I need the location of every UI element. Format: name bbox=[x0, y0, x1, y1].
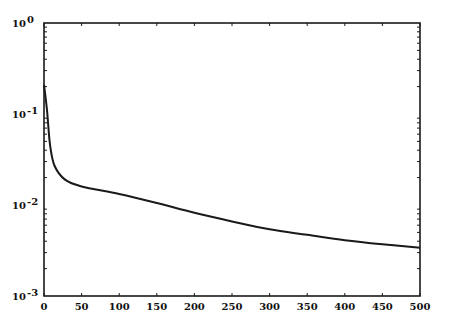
x-tick-label: 400 bbox=[334, 301, 355, 312]
y-tick-exponent: 0 bbox=[27, 14, 34, 25]
x-tick-label: 200 bbox=[184, 301, 205, 312]
y-tick-label: 10 bbox=[12, 18, 26, 29]
x-tick-label: 50 bbox=[75, 301, 89, 312]
series-line bbox=[44, 85, 420, 248]
x-tick-label: 100 bbox=[109, 301, 130, 312]
x-axis: 050100150200250300350400450500 bbox=[41, 23, 431, 312]
line-chart: 10010-110-210-3 050100150200250300350400… bbox=[0, 0, 451, 329]
x-tick-label: 0 bbox=[41, 301, 48, 312]
x-tick-label: 150 bbox=[146, 301, 167, 312]
x-tick-label: 450 bbox=[372, 301, 393, 312]
data-series bbox=[44, 85, 420, 248]
y-tick-label: 10 bbox=[12, 200, 26, 211]
y-tick-exponent: -3 bbox=[27, 287, 38, 298]
plot-border bbox=[44, 23, 420, 296]
x-tick-label: 500 bbox=[410, 301, 431, 312]
y-tick-exponent: -2 bbox=[27, 196, 38, 207]
y-axis: 10010-110-210-3 bbox=[12, 14, 420, 302]
plot-frame bbox=[44, 23, 420, 296]
y-tick-label: 10 bbox=[12, 291, 26, 302]
x-tick-label: 250 bbox=[222, 301, 243, 312]
x-tick-label: 350 bbox=[297, 301, 318, 312]
x-tick-label: 300 bbox=[259, 301, 280, 312]
y-tick-exponent: -1 bbox=[27, 105, 38, 116]
y-tick-label: 10 bbox=[12, 109, 26, 120]
